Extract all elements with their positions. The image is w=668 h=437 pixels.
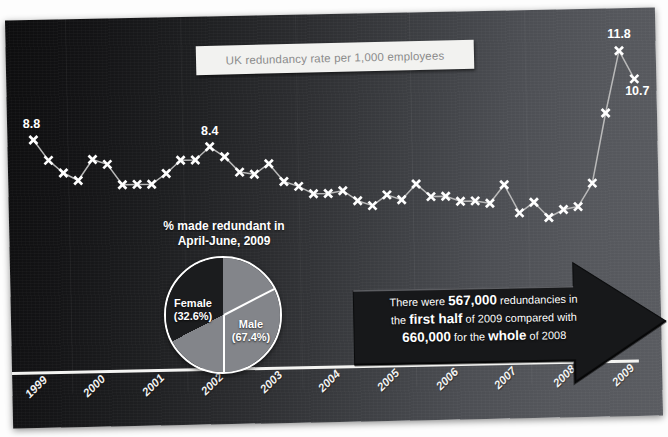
data-point-marker bbox=[369, 202, 377, 210]
data-point-label: 8.8 bbox=[23, 117, 40, 131]
callout-line-3-number: 660,000 bbox=[402, 329, 451, 345]
pie-label-male-value: (67.4%) bbox=[220, 331, 282, 344]
data-point-marker bbox=[45, 156, 53, 164]
data-point-marker bbox=[530, 198, 538, 206]
callout-line-1-a: There were bbox=[389, 295, 448, 308]
callout-line-1-number: 567,000 bbox=[448, 292, 497, 308]
data-point-marker bbox=[412, 180, 420, 188]
callout-line-1-b: redundancies in bbox=[497, 293, 578, 307]
callout-line-3-b: of 2008 bbox=[526, 329, 566, 342]
data-point-marker bbox=[630, 75, 638, 83]
data-point-marker bbox=[280, 178, 288, 186]
data-point-marker bbox=[74, 177, 82, 185]
data-point-marker bbox=[545, 214, 553, 222]
data-point-marker bbox=[516, 209, 524, 217]
pie-inset: % made redundant in April-June, 2009 Fem… bbox=[126, 219, 322, 377]
data-point-marker bbox=[500, 181, 508, 189]
data-point-marker bbox=[103, 160, 111, 168]
data-point-marker bbox=[398, 196, 406, 204]
callout-line-3-emphasis: whole bbox=[488, 328, 527, 344]
data-point-marker bbox=[29, 136, 37, 144]
callout-line-2-emphasis: first half bbox=[409, 311, 463, 327]
pie-label-female-value: (32.6%) bbox=[160, 310, 226, 323]
data-point-marker bbox=[221, 153, 229, 161]
pie-caption-line-1: % made redundant in bbox=[126, 219, 322, 234]
data-point-label: 10.7 bbox=[625, 84, 649, 98]
data-point-label: 8.4 bbox=[201, 124, 218, 138]
pie-label-male-name: Male bbox=[220, 318, 282, 331]
data-point-marker bbox=[89, 156, 97, 164]
data-point-marker bbox=[265, 160, 273, 168]
pie-caption-line-2: April-June, 2009 bbox=[126, 234, 322, 249]
pie-chart: Female (32.6%) Male (67.4%) bbox=[164, 256, 282, 374]
data-point-marker bbox=[295, 182, 303, 190]
pie-label-female-name: Female bbox=[160, 297, 226, 310]
callout-line-3-a: for the bbox=[451, 330, 489, 343]
callout-line-2-b: of 2009 compared with bbox=[462, 311, 577, 325]
data-point-marker bbox=[59, 169, 67, 177]
data-point-marker bbox=[383, 191, 391, 199]
callout-arrow: There were 567,000 redundancies in the f… bbox=[351, 259, 668, 397]
data-point-marker bbox=[354, 197, 362, 205]
pie-label-male: Male (67.4%) bbox=[220, 318, 282, 344]
redundancy-rate-line bbox=[33, 51, 634, 218]
chart-title: UK redundancy rate per 1,000 employees bbox=[226, 49, 445, 66]
pie-caption: % made redundant in April-June, 2009 bbox=[126, 219, 322, 249]
pie-label-female: Female (32.6%) bbox=[160, 297, 226, 323]
infographic-root: UK redundancy rate per 1,000 employees 8… bbox=[0, 0, 668, 437]
callout-text: There were 567,000 redundancies in the f… bbox=[365, 289, 602, 348]
data-point-marker bbox=[162, 170, 170, 178]
data-point-label: 11.8 bbox=[607, 27, 631, 41]
callout-line-2-a: the bbox=[391, 314, 410, 326]
data-point-marker bbox=[206, 143, 214, 151]
data-point-markers bbox=[29, 47, 638, 222]
